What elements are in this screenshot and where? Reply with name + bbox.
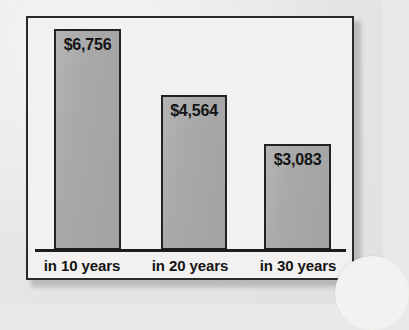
x-axis-category-labels: in 10 years in 20 years in 30 years (28, 252, 352, 278)
bar-in-30-years: $3,083 (264, 144, 331, 250)
bar-value-label-3: $3,083 (266, 150, 329, 169)
x-axis-label-in-10-years: in 10 years (28, 257, 136, 274)
x-axis-label-in-20-years: in 20 years (136, 257, 244, 274)
bar-in-20-years: $4,564 (161, 95, 227, 250)
x-axis-label-in-30-years: in 30 years (244, 257, 352, 274)
plot-area: $6,756 $4,564 $3,083 in 10 years in 20 y… (28, 18, 352, 278)
bar-chart-figure: $6,756 $4,564 $3,083 in 10 years in 20 y… (26, 16, 354, 280)
bar-in-10-years: $6,756 (54, 29, 121, 250)
bar-value-label-1: $6,756 (56, 35, 119, 54)
bar-value-label-2: $4,564 (163, 101, 225, 120)
